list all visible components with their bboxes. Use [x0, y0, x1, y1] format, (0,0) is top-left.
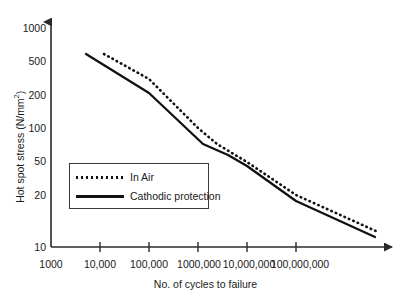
legend-label-cathodic-protection: Cathodic protection: [130, 191, 220, 202]
x-tick-label-10000: 10,000: [84, 259, 116, 270]
legend: In Air Cathodic protection: [69, 163, 209, 209]
x-tick-label-10000000: 10,000,000: [223, 259, 276, 270]
series-cathodic-protection: [86, 54, 375, 237]
legend-swatch-solid-line-icon: [76, 191, 124, 201]
y-axis-title-close: ): [14, 91, 26, 95]
y-axis-title: Hot spot stress (N/mm2): [12, 57, 26, 237]
x-tick-label-1000000: 1000,000: [177, 259, 221, 270]
y-axis-title-exponent: 2: [12, 94, 21, 98]
chart-page: 1000 500 200 100 50 20 10 1000 10,000 10…: [0, 0, 411, 302]
y-axis-title-text: Hot spot stress (N/mm: [14, 98, 26, 202]
x-axis-title: No. of cycles to failure: [154, 278, 257, 290]
x-tick-label-100000: 100,000: [130, 259, 168, 270]
legend-item-in-air: In Air: [76, 170, 154, 184]
y-tick-label-10: 10: [14, 242, 46, 253]
x-tick-label-1000: 1000: [39, 259, 62, 270]
legend-item-cathodic-protection: Cathodic protection: [76, 189, 220, 203]
legend-label-in-air: In Air: [130, 172, 154, 183]
x-tick-label-100000000: 100,000,000: [271, 259, 329, 270]
legend-swatch-dotted-line-icon: [76, 172, 124, 182]
chart-plot-area: [0, 0, 411, 302]
y-tick-label-1000: 1000: [14, 23, 46, 34]
